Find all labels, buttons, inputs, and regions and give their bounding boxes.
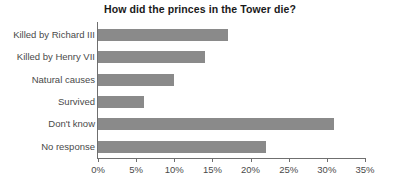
bar-row bbox=[98, 136, 365, 158]
bar-chart: How did the princes in the Tower die? Ki… bbox=[0, 0, 400, 196]
category-label: Killed by Richard III bbox=[0, 24, 95, 46]
x-tick-label: 30% bbox=[307, 164, 347, 175]
x-tick-mark bbox=[365, 158, 366, 162]
category-label: Killed by Henry VII bbox=[0, 46, 95, 68]
x-axis-line bbox=[97, 158, 366, 159]
bar-row bbox=[98, 46, 365, 68]
category-label: No response bbox=[0, 136, 95, 158]
x-tick-label: 15% bbox=[192, 164, 232, 175]
x-tick-label: 10% bbox=[154, 164, 194, 175]
category-label: Survived bbox=[0, 91, 95, 113]
x-tick-mark bbox=[327, 158, 328, 162]
bar[interactable] bbox=[98, 141, 266, 153]
x-tick-mark bbox=[251, 158, 252, 162]
bar[interactable] bbox=[98, 51, 205, 63]
bar-row bbox=[98, 113, 365, 135]
bar[interactable] bbox=[98, 29, 228, 41]
x-tick-label: 5% bbox=[116, 164, 156, 175]
bar-row bbox=[98, 91, 365, 113]
x-tick-mark bbox=[98, 158, 99, 162]
x-tick-mark bbox=[136, 158, 137, 162]
x-tick-label: 0% bbox=[78, 164, 118, 175]
category-label: Natural causes bbox=[0, 69, 95, 91]
chart-title: How did the princes in the Tower die? bbox=[0, 3, 400, 15]
category-label: Don't know bbox=[0, 113, 95, 135]
x-tick-label: 20% bbox=[231, 164, 271, 175]
bar[interactable] bbox=[98, 118, 334, 130]
x-tick-mark bbox=[212, 158, 213, 162]
x-tick-mark bbox=[289, 158, 290, 162]
x-tick-label: 35% bbox=[345, 164, 385, 175]
bar-row bbox=[98, 69, 365, 91]
bar-row bbox=[98, 24, 365, 46]
bar[interactable] bbox=[98, 74, 174, 86]
bar[interactable] bbox=[98, 96, 144, 108]
x-tick-label: 25% bbox=[269, 164, 309, 175]
plot-area bbox=[98, 24, 365, 158]
x-tick-mark bbox=[174, 158, 175, 162]
